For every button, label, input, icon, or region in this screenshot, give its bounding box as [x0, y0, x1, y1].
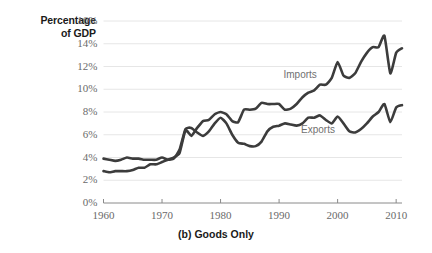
y-axis-tick-label: 8%	[62, 105, 98, 117]
figure-caption: (b) Goods Only	[0, 228, 432, 240]
y-axis-tick-label: 12%	[62, 60, 98, 72]
x-axis-tick-label: 1990	[256, 209, 302, 221]
x-axis-tick-label: 1960	[81, 209, 127, 221]
gridlines	[104, 21, 403, 180]
y-axis-tick-label: 0%	[62, 196, 98, 208]
series-label-imports: Imports	[284, 69, 317, 80]
y-axis-tick-label: 6%	[62, 128, 98, 140]
x-axis-tick-label: 1970	[139, 209, 185, 221]
series-line-exports	[104, 104, 403, 161]
y-axis-tick-label: 4%	[62, 151, 98, 163]
y-axis-tick-label: 10%	[62, 82, 98, 94]
series-line-imports	[104, 36, 403, 173]
x-axis-tick-label: 2010	[373, 209, 419, 221]
chart-figure: Percentage of GDP 0%2%4%6%8%10%12%14%16%…	[0, 0, 432, 253]
axes	[104, 199, 403, 203]
y-axis-tick-label: 2%	[62, 173, 98, 185]
x-axis-tick-label: 1980	[198, 209, 244, 221]
y-axis-tick-label: 14%	[62, 37, 98, 49]
series-lines	[104, 36, 403, 173]
x-axis-tick-label: 2000	[315, 209, 361, 221]
series-label-exports: Exports	[301, 124, 335, 135]
y-axis-tick-label: 16%	[62, 14, 98, 26]
